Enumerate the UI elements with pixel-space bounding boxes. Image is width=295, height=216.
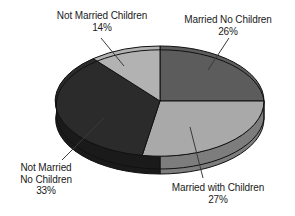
pie-label-not-married-no-children: Not Married No Children 33% <box>0 162 94 197</box>
pie-label-not-married-children-name: Not Married Children <box>38 10 166 22</box>
pie-label-not-married-no-children-value: 33% <box>0 185 94 197</box>
pie-label-not-married-no-children-name-line2: No Children <box>0 174 94 186</box>
pie-label-married-with-children-value: 27% <box>142 194 294 206</box>
pie-chart: Not Married Children 14% Married No Chil… <box>0 0 295 216</box>
pie-label-married-with-children: Married with Children 27% <box>142 182 294 205</box>
pie-label-married-no-children-name: Married No Children <box>164 14 292 26</box>
pie-label-married-no-children: Married No Children 26% <box>164 14 292 37</box>
pie-slice-married-no-children <box>160 46 264 101</box>
pie-top-face <box>55 46 264 156</box>
pie-label-not-married-children-value: 14% <box>38 22 166 34</box>
pie-label-not-married-children: Not Married Children 14% <box>38 10 166 33</box>
pie-label-married-with-children-name: Married with Children <box>142 182 294 194</box>
pie-label-married-no-children-value: 26% <box>164 26 292 38</box>
pie-label-not-married-no-children-name-line1: Not Married <box>0 162 94 174</box>
